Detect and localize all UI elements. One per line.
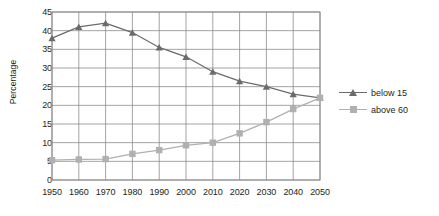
x-tick-label: 2020 bbox=[230, 187, 250, 197]
data-point-marker bbox=[209, 68, 216, 75]
data-point-marker bbox=[236, 130, 242, 136]
legend-label-above-60: above 60 bbox=[371, 105, 408, 115]
data-point-marker bbox=[182, 53, 189, 60]
x-tick-label: 1980 bbox=[123, 187, 143, 197]
data-point-marker bbox=[102, 156, 108, 162]
x-tick-label: 1950 bbox=[42, 187, 62, 197]
legend-marker-above-60 bbox=[339, 104, 367, 116]
data-point-marker bbox=[129, 29, 136, 36]
x-tick-label: 1970 bbox=[96, 187, 116, 197]
data-point-marker bbox=[210, 139, 216, 145]
data-point-marker bbox=[49, 157, 55, 163]
x-tick-label: 2000 bbox=[176, 187, 196, 197]
data-point-marker bbox=[129, 151, 135, 157]
x-tick-label: 1990 bbox=[149, 187, 169, 197]
legend-marker-below-15 bbox=[339, 87, 367, 99]
data-point-marker bbox=[156, 44, 163, 51]
x-axis-tick-labels: 1950196019701980199020002010202020302040… bbox=[0, 187, 439, 207]
legend-symbol bbox=[350, 106, 357, 113]
data-point-marker bbox=[183, 142, 189, 148]
x-tick-label: 1960 bbox=[69, 187, 89, 197]
legend-symbol bbox=[349, 89, 357, 96]
legend-item-above-60: above 60 bbox=[339, 101, 408, 118]
data-point-marker bbox=[236, 78, 243, 85]
data-point-marker bbox=[290, 106, 296, 112]
x-tick-label: 2040 bbox=[283, 187, 303, 197]
x-tick-label: 2010 bbox=[203, 187, 223, 197]
x-tick-label: 2050 bbox=[310, 187, 330, 197]
data-point-marker bbox=[156, 147, 162, 153]
data-point-marker bbox=[48, 35, 55, 42]
chart-legend: below 15 above 60 bbox=[339, 84, 408, 118]
data-point-marker bbox=[263, 119, 269, 125]
chart-container: Percentage 051015202530354045 1950196019… bbox=[0, 0, 439, 216]
legend-label-below-15: below 15 bbox=[371, 88, 407, 98]
x-tick-label: 2030 bbox=[257, 187, 277, 197]
data-point-marker bbox=[317, 95, 323, 101]
data-point-marker bbox=[76, 156, 82, 162]
legend-item-below-15: below 15 bbox=[339, 84, 408, 101]
